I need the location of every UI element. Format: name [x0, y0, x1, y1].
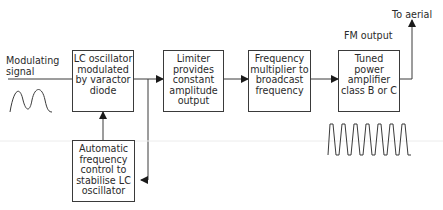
- lc-oscillator-block: LC oscillator modulated by varactor diod…: [72, 50, 134, 112]
- fm-transmitter-diagram: Modulating signal FM output To aerial LC…: [0, 0, 443, 210]
- arrow-to-aerial: [400, 20, 412, 79]
- afc-block: Automatic frequency control to stabilise…: [72, 140, 135, 202]
- power-amplifier-block: Tuned power amplifier class B or C: [338, 50, 400, 112]
- modulating-waveform: [10, 90, 52, 113]
- fm-output-waveform: [328, 124, 411, 155]
- limiter-block: Limiter provides constant amplitude outp…: [163, 50, 224, 112]
- frequency-multiplier-block: Frequency multiplier to broadcast freque…: [248, 50, 311, 112]
- to-aerial-label: To aerial: [392, 9, 432, 20]
- arrow-to-afc: [141, 79, 148, 180]
- fm-output-label: FM output: [344, 30, 393, 41]
- modulating-signal-label: Modulating signal: [6, 55, 59, 77]
